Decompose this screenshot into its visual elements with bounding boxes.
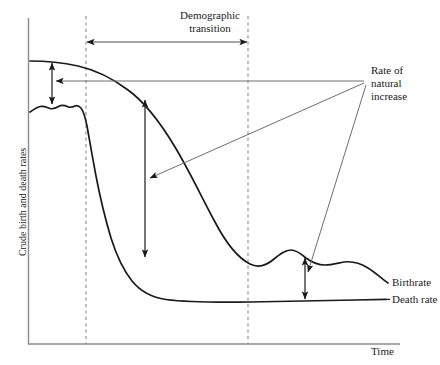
leader-line-to-stage4 (308, 85, 366, 272)
chart-canvas (0, 0, 440, 365)
death-rate-curve (30, 105, 386, 302)
demographic-transition-figure: Demographic transition Rate of natural i… (0, 0, 440, 365)
birthrate-curve (30, 61, 388, 283)
x-axis-label: Time (371, 345, 394, 358)
demographic-transition-label: Demographic transition (150, 9, 270, 35)
death-rate-series-label: Death rate (392, 293, 438, 306)
rate-of-natural-increase-label: Rate of natural increase (371, 64, 437, 103)
leader-line-to-stage2 (150, 83, 364, 178)
natural-increase-leader-lines (56, 81, 366, 272)
birthrate-series-label: Birthrate (392, 276, 431, 289)
y-axis-label: Crude birth and death rates (17, 117, 29, 287)
stage-divider-lines (86, 16, 248, 344)
